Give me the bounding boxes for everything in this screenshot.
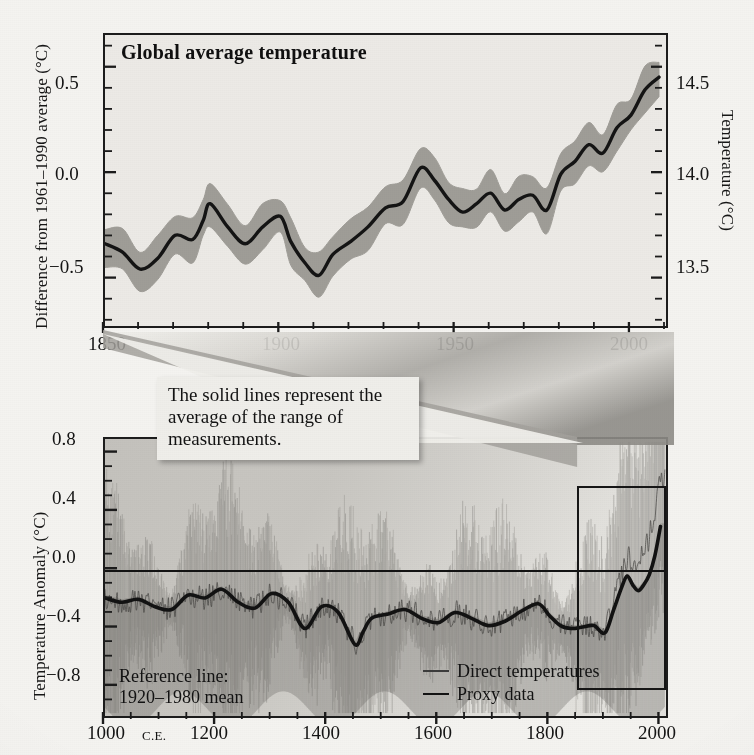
- top-chart-title: Global average temperature: [121, 41, 367, 64]
- figure-root: Difference from 1961–1990 average (°C) 0…: [0, 0, 754, 755]
- top-chart-ylabel-left: Difference from 1961–1990 average (°C): [32, 44, 52, 329]
- bottom-xtick-0-suffix: C.E.: [142, 728, 166, 744]
- bottom-xtick-2: 1400: [302, 722, 340, 744]
- top-chart-svg: [105, 35, 666, 326]
- bottom-xtick-1: 1200: [190, 722, 228, 744]
- reference-note-line1: Reference line:: [119, 666, 243, 687]
- legend-line-swatch-direct: [423, 670, 449, 672]
- reference-line-note: Reference line: 1920–1980 mean: [119, 666, 243, 708]
- callout-box: The solid lines represent the average of…: [157, 377, 419, 460]
- bottom-xtick-4: 1800: [526, 722, 564, 744]
- callout-text: The solid lines represent the average of…: [168, 384, 382, 449]
- bottom-ytick-2: 0.0: [52, 546, 76, 568]
- top-chart-plot-area: Global average temperature: [103, 33, 668, 328]
- top-ytick-2: −0.5: [49, 256, 83, 278]
- bottom-xtick-5: 2000: [638, 722, 676, 744]
- top-chart-ylabel-right: Temperature (°C): [717, 110, 737, 231]
- bottom-xtick-0: 1000: [87, 722, 125, 744]
- top-ytick-right-0: 14.5: [676, 72, 709, 94]
- bottom-chart-legend: Direct temperatures Proxy data: [423, 660, 599, 706]
- top-ytick-right-2: 13.5: [676, 256, 709, 278]
- top-ytick-right-1: 14.0: [676, 163, 709, 185]
- legend-item-direct: Direct temperatures: [423, 660, 599, 683]
- bottom-chart-plot-area: Reference line: 1920–1980 mean Direct te…: [103, 437, 668, 718]
- bottom-ytick-4: −0.8: [46, 664, 80, 686]
- bottom-ytick-1: 0.4: [52, 487, 76, 509]
- reference-note-line2: 1920–1980 mean: [119, 687, 243, 708]
- legend-label-proxy: Proxy data: [457, 683, 534, 706]
- legend-item-proxy: Proxy data: [423, 683, 599, 706]
- bottom-ytick-3: −0.4: [46, 605, 80, 627]
- legend-label-direct: Direct temperatures: [457, 660, 599, 683]
- top-ytick-0: 0.5: [55, 72, 79, 94]
- top-ytick-1: 0.0: [55, 163, 79, 185]
- legend-line-swatch-proxy: [423, 693, 449, 695]
- bottom-xtick-3: 1600: [414, 722, 452, 744]
